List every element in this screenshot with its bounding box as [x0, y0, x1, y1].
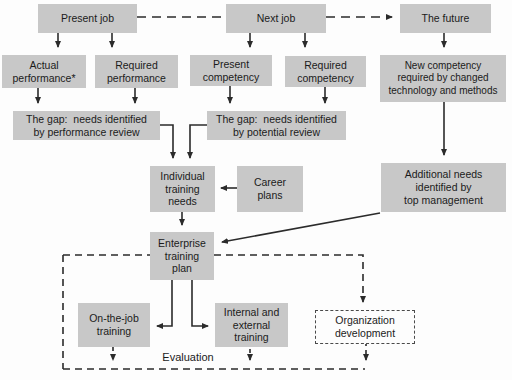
node-on-the-job-training: On-the-job training: [78, 303, 150, 347]
arrow-additionalneeds-to-enterprise: [222, 213, 380, 242]
evaluation-label: Evaluation: [155, 351, 221, 363]
node-required-performance: Required performance: [95, 55, 178, 88]
node-career-plans: Career plans: [237, 166, 303, 212]
node-required-competency: Required competency: [285, 56, 366, 87]
node-organization-development: Organization development: [315, 310, 415, 344]
node-additional-needs: Additional needs identified by top manag…: [381, 163, 506, 212]
node-actual-performance: Actual performance*: [2, 55, 86, 88]
elbow-enterprise-to-onthejob: [157, 280, 172, 326]
node-new-competency: New competency required by changed techn…: [380, 55, 506, 102]
node-the-future: The future: [400, 4, 491, 33]
node-individual-training-needs: Individual training needs: [150, 166, 215, 212]
node-enterprise-training-plan: Enterprise training plan: [150, 232, 214, 280]
elbow-gap2-to-itn: [190, 125, 207, 158]
node-present-competency: Present competency: [190, 55, 272, 86]
elbow-enterprise-to-internalexternal: [192, 280, 208, 326]
node-internal-external-training: Internal and external training: [215, 303, 288, 347]
node-gap-potential-review: The gap: needs identified by potential r…: [207, 111, 346, 140]
elbow-gap1-to-itn: [160, 125, 173, 158]
training-needs-flowchart: Present job Next job The future Actual p…: [0, 0, 512, 380]
dashed-frame-top-right-to-orgdev: [214, 255, 363, 302]
node-gap-performance-review: The gap: needs identified by performance…: [13, 111, 160, 140]
node-present-job: Present job: [38, 4, 137, 33]
node-next-job: Next job: [226, 4, 326, 33]
